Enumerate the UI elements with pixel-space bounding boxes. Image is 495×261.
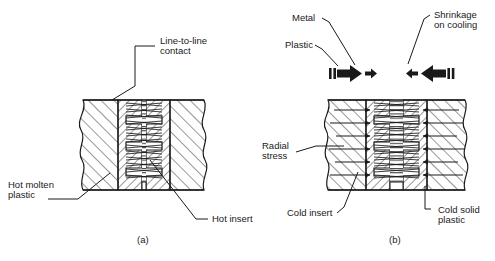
big-right-arrow-left-group (337, 65, 362, 82)
leader-shrinkage (408, 15, 430, 64)
arrow-group-right (406, 65, 454, 82)
bar-glyph-right-1 (447, 68, 450, 79)
arrow-group-left (329, 65, 377, 82)
panel-b: Metal Plastic Shrinkage on cooling Radia… (262, 9, 482, 245)
leader-metal (322, 18, 355, 65)
caption-panel-a: (a) (137, 234, 149, 245)
label-metal: Metal (292, 12, 315, 23)
label-shrinkage-on-cooling: Shrinkage on cooling (434, 9, 479, 30)
small-right-arrow-left-group (365, 69, 377, 79)
label-hot-molten-plastic: Hot molten plastic (8, 179, 57, 200)
label-radial-stress: Radial stress (262, 140, 292, 161)
plastic-right-b (427, 100, 468, 190)
label-cold-insert: Cold insert (287, 207, 333, 218)
label-plastic: Plastic (285, 39, 313, 50)
bar-glyph-left-1 (329, 68, 332, 79)
caption-panel-b: (b) (389, 234, 401, 245)
plastic-right-a (170, 100, 207, 190)
panel-a: Line-to-line contact Hot molten plastic … (8, 35, 253, 245)
small-left-arrow-right-group (406, 69, 418, 79)
insert-molding-figure: Line-to-line contact Hot molten plastic … (0, 0, 495, 261)
bore-bottom-b (390, 182, 403, 190)
leader-line-to-line (112, 46, 155, 100)
bar-glyph-right-2 (452, 68, 455, 79)
big-left-arrow-right-group (421, 65, 446, 82)
label-hot-insert: Hot insert (212, 213, 253, 224)
label-cold-solid-plastic: Cold solid plastic (438, 204, 482, 225)
label-line-to-line-contact: Line-to-line contact (160, 35, 210, 56)
leader-plastic (315, 45, 338, 66)
bar-glyph-left-2 (333, 68, 336, 79)
bore-bottom-a (142, 182, 146, 190)
plastic-left-a (79, 100, 118, 190)
plastic-left-b (324, 100, 366, 190)
